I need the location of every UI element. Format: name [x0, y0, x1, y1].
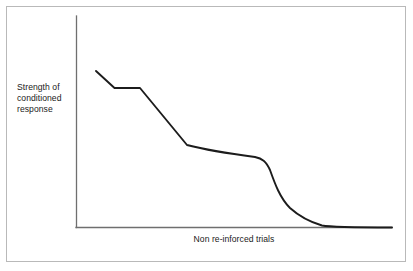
y-axis-label-line-1: Strength of: [17, 82, 75, 93]
x-axis-label: Non re-inforced trials: [76, 234, 392, 244]
figure-container: Strength of conditioned response Non re-…: [0, 0, 413, 271]
y-axis-label-line-2: conditioned: [17, 93, 75, 104]
extinction-curve: [96, 71, 392, 228]
y-axis-label: Strength of conditioned response: [17, 82, 75, 114]
chart-plot-area: [0, 0, 413, 271]
y-axis-label-line-3: response: [17, 104, 75, 115]
